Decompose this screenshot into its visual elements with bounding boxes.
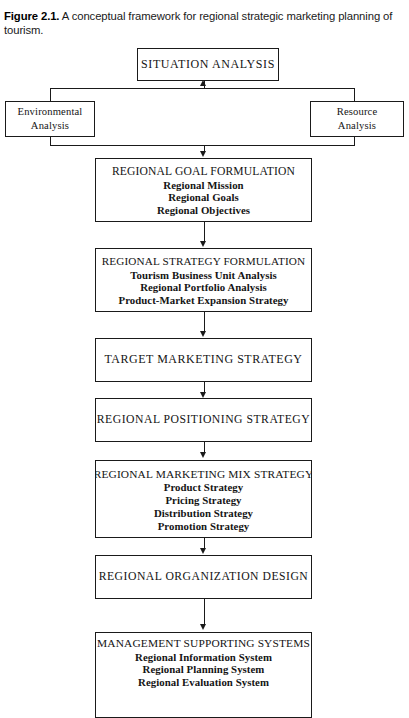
node-regional-goal-formulation[interactable]: REGIONAL GOAL FORMULATION Regional Missi… — [95, 158, 312, 222]
figure-caption: Figure 2.1. A conceptual framework for r… — [4, 9, 404, 38]
node-environmental-analysis-line1: Environmental — [18, 105, 83, 119]
node-situation-analysis[interactable]: SITUATION ANALYSIS — [137, 48, 279, 81]
node-management-supporting-systems-title: MANAGEMENT SUPPORTING SYSTEMS — [97, 637, 310, 651]
node-regional-strategy-formulation-sub-2: Regional Portfolio Analysis — [140, 281, 267, 294]
arrow-into-situation-analysis — [200, 80, 206, 86]
node-management-supporting-systems-sub-2: Regional Planning System — [143, 663, 265, 676]
node-regional-strategy-formulation[interactable]: REGIONAL STRATEGY FORMULATION Tourism Bu… — [95, 248, 312, 312]
node-environmental-analysis-line2: Analysis — [31, 119, 69, 133]
node-target-marketing-strategy-title: TARGET MARKETING STRATEGY — [105, 353, 303, 367]
node-situation-analysis-title: SITUATION ANALYSIS — [141, 58, 275, 72]
node-regional-marketing-mix-strategy-sub-2: Pricing Strategy — [165, 494, 241, 507]
node-regional-marketing-mix-strategy-sub-1: Product Strategy — [164, 481, 243, 494]
arrow-into-target-marketing-strategy — [200, 331, 206, 337]
node-environmental-analysis[interactable]: Environmental Analysis — [5, 101, 95, 137]
node-resource-analysis-line2: Analysis — [338, 119, 376, 133]
node-regional-goal-formulation-sub-3: Regional Objectives — [157, 204, 250, 217]
node-resource-analysis[interactable]: Resource Analysis — [310, 101, 404, 137]
node-regional-organization-design[interactable]: REGIONAL ORGANIZATION DESIGN — [95, 555, 312, 599]
node-regional-marketing-mix-strategy-title: REGIONAL MARKETING MIX STRATEGY — [95, 468, 312, 482]
connector-strategy-to-target — [204, 312, 205, 332]
node-regional-positioning-strategy-title: REGIONAL POSITIONING STRATEGY — [97, 413, 310, 427]
node-target-marketing-strategy[interactable]: TARGET MARKETING STRATEGY — [95, 338, 312, 382]
node-regional-strategy-formulation-sub-3: Product-Market Expansion Strategy — [119, 294, 289, 307]
node-regional-organization-design-title: REGIONAL ORGANIZATION DESIGN — [99, 570, 309, 584]
node-management-supporting-systems-sub-1: Regional Information System — [135, 651, 272, 664]
node-regional-goal-formulation-sub-1: Regional Mission — [163, 179, 243, 192]
node-management-supporting-systems-sub-3: Regional Evaluation System — [138, 676, 269, 689]
figure-number: Figure 2.1. — [4, 10, 59, 22]
node-regional-marketing-mix-strategy[interactable]: REGIONAL MARKETING MIX STRATEGY Product … — [95, 460, 312, 538]
node-regional-strategy-formulation-sub-1: Tourism Business Unit Analysis — [130, 269, 277, 282]
connector-bottom-bracket-bar — [50, 145, 355, 146]
connector-top-bracket-bar — [50, 88, 355, 89]
arrow-into-regional-organization-design — [200, 548, 206, 554]
node-regional-positioning-strategy[interactable]: REGIONAL POSITIONING STRATEGY — [95, 398, 312, 442]
figure-caption-text: A conceptual framework for regional stra… — [4, 10, 392, 36]
node-regional-goal-formulation-sub-2: Regional Goals — [168, 191, 239, 204]
arrow-into-regional-goal-formulation — [200, 151, 206, 157]
node-management-supporting-systems[interactable]: MANAGEMENT SUPPORTING SYSTEMS Regional I… — [95, 632, 312, 718]
connector-top-bar-left-drop — [50, 88, 51, 101]
arrow-into-regional-marketing-mix-strategy — [200, 452, 206, 458]
arrow-into-regional-strategy-formulation — [200, 241, 206, 247]
connector-organization-to-management — [204, 599, 205, 625]
node-regional-goal-formulation-title: REGIONAL GOAL FORMULATION — [112, 165, 295, 179]
node-resource-analysis-line1: Resource — [337, 105, 378, 119]
connector-top-bar-right-drop — [354, 88, 355, 101]
node-regional-marketing-mix-strategy-sub-4: Promotion Strategy — [158, 520, 250, 533]
connector-goal-to-strategy — [204, 222, 205, 242]
node-regional-marketing-mix-strategy-sub-3: Distribution Strategy — [154, 507, 253, 520]
node-regional-strategy-formulation-title: REGIONAL STRATEGY FORMULATION — [102, 255, 306, 269]
arrow-into-management-supporting-systems — [200, 624, 206, 630]
